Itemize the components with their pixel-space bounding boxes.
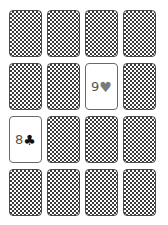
card-r2-c2-face-down[interactable]	[47, 63, 80, 110]
card-r4-c2-face-down[interactable]	[47, 169, 80, 216]
card-r3-c3-face-down[interactable]	[85, 116, 118, 163]
card-grid: 9 ♥ 8 ♣	[9, 10, 156, 216]
card-r1-c1-face-down[interactable]	[9, 10, 42, 57]
club-icon: ♣	[23, 133, 36, 147]
card-r1-c4-face-down[interactable]	[123, 10, 156, 57]
card-r2-c1-face-down[interactable]	[9, 63, 42, 110]
card-r4-c4-face-down[interactable]	[123, 169, 156, 216]
card-r3-c4-face-down[interactable]	[123, 116, 156, 163]
card-r2-c4-face-down[interactable]	[123, 63, 156, 110]
card-rank: 8	[15, 133, 23, 146]
card-r4-c3-face-down[interactable]	[85, 169, 118, 216]
card-r1-c2-face-down[interactable]	[47, 10, 80, 57]
card-r1-c3-face-down[interactable]	[85, 10, 118, 57]
card-r2-c3-face-up[interactable]: 9 ♥	[85, 63, 118, 110]
card-r4-c1-face-down[interactable]	[9, 169, 42, 216]
card-rank: 9	[91, 80, 99, 93]
card-r3-c1-face-up[interactable]: 8 ♣	[9, 116, 42, 163]
heart-icon: ♥	[99, 80, 112, 94]
card-r3-c2-face-down[interactable]	[47, 116, 80, 163]
